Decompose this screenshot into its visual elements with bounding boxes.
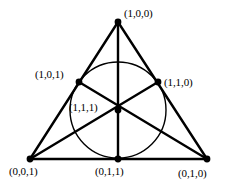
point-label-center: (1,1,1) xyxy=(69,102,98,113)
fano-plane-diagram: (1,0,0)(1,0,1)(1,1,0)(1,1,1)(0,0,1)(0,1,… xyxy=(0,0,235,186)
lines-group xyxy=(30,22,207,159)
point-apex xyxy=(115,19,122,26)
fano-plane-svg xyxy=(0,0,235,186)
point-label-bottom-mid: (0,1,1) xyxy=(95,166,124,177)
point-bottom-mid xyxy=(115,156,122,163)
point-label-mid-left: (1,0,1) xyxy=(35,69,64,80)
point-label-mid-right: (1,1,0) xyxy=(164,77,193,88)
point-label-bottom-right: (0,1,0) xyxy=(178,168,207,179)
point-mid-right xyxy=(155,79,162,86)
point-bottom-right xyxy=(204,156,211,163)
point-bottom-left xyxy=(27,156,34,163)
point-mid-left xyxy=(76,79,83,86)
line-median-left xyxy=(30,82,158,159)
line-median-right xyxy=(79,82,207,159)
point-label-apex: (1,0,0) xyxy=(124,8,153,19)
point-center xyxy=(115,107,122,114)
point-label-bottom-left: (0,0,1) xyxy=(9,166,38,177)
